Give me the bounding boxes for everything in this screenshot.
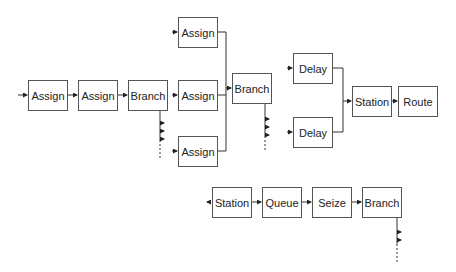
connector-lines <box>0 0 456 272</box>
block-branch2[interactable]: Branch <box>232 73 272 104</box>
block-branch1[interactable]: Branch <box>128 80 168 111</box>
block-delay1[interactable]: Delay <box>293 53 333 84</box>
block-queue1[interactable]: Queue <box>262 187 302 218</box>
block-assign2[interactable]: Assign <box>78 80 118 111</box>
block-station1[interactable]: Station <box>352 86 392 117</box>
block-branch3[interactable]: Branch <box>362 187 402 218</box>
block-route1[interactable]: Route <box>398 86 438 117</box>
block-delay2[interactable]: Delay <box>293 117 333 148</box>
block-assign5[interactable]: Assign <box>178 136 218 167</box>
block-assign3[interactable]: Assign <box>178 17 218 48</box>
block-assign1[interactable]: Assign <box>28 80 68 111</box>
block-seize1[interactable]: Seize <box>312 187 352 218</box>
block-station2[interactable]: Station <box>212 187 252 218</box>
block-assign4[interactable]: Assign <box>178 80 218 111</box>
